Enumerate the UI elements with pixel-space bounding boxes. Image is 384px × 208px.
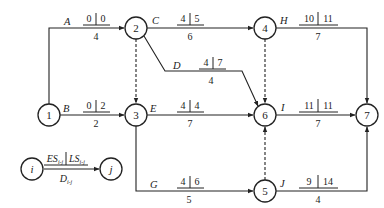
svg-text:5: 5 bbox=[187, 194, 192, 205]
svg-text:2: 2 bbox=[101, 100, 106, 111]
svg-text:J: J bbox=[280, 178, 286, 189]
svg-text:6: 6 bbox=[195, 176, 200, 187]
activity-J: J 9 14 4 bbox=[280, 175, 338, 205]
svg-text:4: 4 bbox=[181, 100, 186, 111]
node-3: 3 bbox=[125, 104, 147, 126]
svg-text:4: 4 bbox=[195, 100, 200, 111]
edge-D bbox=[144, 36, 258, 106]
svg-text:D: D bbox=[172, 60, 181, 71]
svg-text:4: 4 bbox=[204, 57, 209, 68]
svg-text:11: 11 bbox=[323, 100, 333, 111]
edge-J bbox=[276, 127, 367, 191]
svg-text:2: 2 bbox=[133, 22, 139, 34]
svg-text:0: 0 bbox=[101, 13, 106, 24]
svg-text:11: 11 bbox=[323, 13, 333, 24]
svg-text:14: 14 bbox=[323, 176, 333, 187]
node-6: 6 bbox=[254, 104, 276, 126]
svg-text:7: 7 bbox=[188, 118, 193, 129]
svg-text:3: 3 bbox=[133, 109, 139, 121]
svg-text:LSi-j: LSi-j bbox=[68, 153, 85, 165]
svg-text:5: 5 bbox=[195, 13, 200, 24]
svg-text:10: 10 bbox=[304, 13, 314, 24]
node-4: 4 bbox=[254, 17, 276, 39]
node-7: 7 bbox=[356, 104, 378, 126]
svg-text:G: G bbox=[150, 179, 158, 190]
activity-H: H 10 11 7 bbox=[279, 12, 338, 42]
svg-text:11: 11 bbox=[304, 100, 314, 111]
svg-text:4: 4 bbox=[181, 176, 186, 187]
svg-text:Di-j: Di-j bbox=[59, 173, 73, 185]
svg-text:4: 4 bbox=[262, 22, 268, 34]
svg-text:i: i bbox=[30, 163, 33, 175]
svg-text:4: 4 bbox=[209, 75, 214, 86]
legend: i j ESi-j LSi-j Di-j bbox=[21, 152, 122, 185]
svg-text:H: H bbox=[279, 15, 289, 26]
svg-text:7: 7 bbox=[364, 109, 370, 121]
svg-text:E: E bbox=[149, 103, 157, 114]
svg-text:4: 4 bbox=[94, 31, 99, 42]
svg-text:6: 6 bbox=[188, 31, 193, 42]
svg-text:C: C bbox=[152, 15, 160, 26]
svg-text:9: 9 bbox=[307, 176, 312, 187]
svg-text:I: I bbox=[280, 102, 285, 113]
svg-text:0: 0 bbox=[87, 13, 92, 24]
network-diagram: A 0 0 4 B 0 2 2 C 4 5 6 D 4 7 4 E 4 4 bbox=[0, 0, 384, 208]
svg-text:B: B bbox=[63, 103, 70, 114]
svg-text:4: 4 bbox=[316, 194, 321, 205]
node-5: 5 bbox=[254, 180, 276, 202]
svg-text:7: 7 bbox=[316, 31, 321, 42]
svg-text:7: 7 bbox=[316, 118, 321, 129]
svg-text:0: 0 bbox=[87, 100, 92, 111]
edge-A bbox=[49, 28, 124, 104]
svg-text:2: 2 bbox=[94, 118, 99, 129]
svg-text:6: 6 bbox=[262, 109, 268, 121]
node-2: 2 bbox=[125, 17, 147, 39]
edge-H bbox=[276, 28, 367, 103]
node-1: 1 bbox=[38, 104, 60, 126]
svg-text:ESi-j: ESi-j bbox=[46, 153, 64, 165]
svg-text:4: 4 bbox=[181, 13, 186, 24]
svg-text:1: 1 bbox=[46, 109, 52, 121]
svg-text:5: 5 bbox=[262, 185, 268, 197]
svg-text:7: 7 bbox=[218, 57, 223, 68]
svg-text:A: A bbox=[63, 16, 71, 27]
activity-I: I 11 11 7 bbox=[280, 99, 338, 129]
